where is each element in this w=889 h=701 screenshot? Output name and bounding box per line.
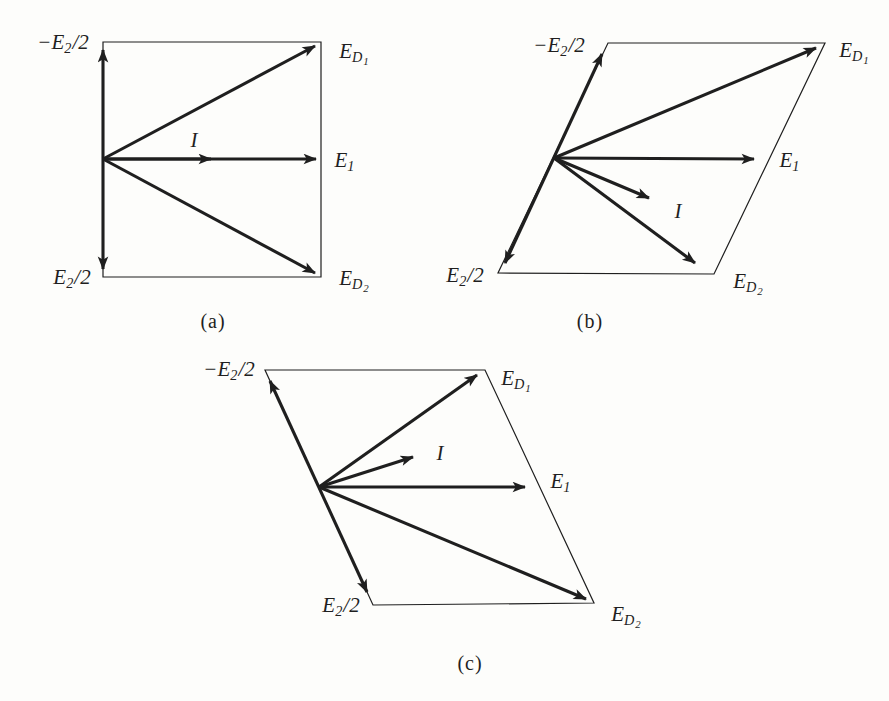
figure-phasor-diagrams: −E2/2 ED1 E1 ED2 E2/2 I (a) −E2/2 ED1 E1… [0,0,889,701]
vector-ed2-c [319,487,586,599]
vector-ed1-c [319,375,477,487]
label-i-a: I [191,130,198,151]
label-neg-e2-half-c: −E2/2 [203,359,254,380]
label-ed1-b: ED1 [839,40,869,61]
label-i-b: I [675,201,682,222]
label-e1-a: E1 [335,150,356,171]
label-e2-half-a: E2/2 [53,267,90,288]
label-e2-half-c: E2/2 [322,595,359,616]
label-e1-b: E1 [780,150,801,171]
diagram-b [498,43,825,274]
label-ed1-a: ED1 [339,41,369,62]
vector-e1-b [554,158,754,159]
label-ed1-c: ED1 [501,368,531,389]
diagram-a [103,42,321,277]
vector-ed1-a [103,46,315,159]
label-ed2-c: ED2 [611,604,641,625]
label-ed2-a: ED2 [339,268,369,289]
vector-ed1-b [554,48,816,158]
caption-c: (c) [457,653,482,673]
label-neg-e2-half-b: −E2/2 [533,35,584,56]
label-ed2-b: ED2 [733,271,763,292]
caption-a: (a) [200,311,225,331]
label-neg-e2-half-a: −E2/2 [37,32,88,53]
label-i-c: I [437,443,444,464]
label-e2-half-b: E2/2 [446,265,483,286]
vector-i-c [319,457,413,487]
diagram-c [265,370,594,605]
label-e1-c: E1 [551,471,572,492]
caption-b: (b) [577,311,603,331]
vector-ed2-a [103,159,315,273]
phasor-svg [0,0,889,701]
